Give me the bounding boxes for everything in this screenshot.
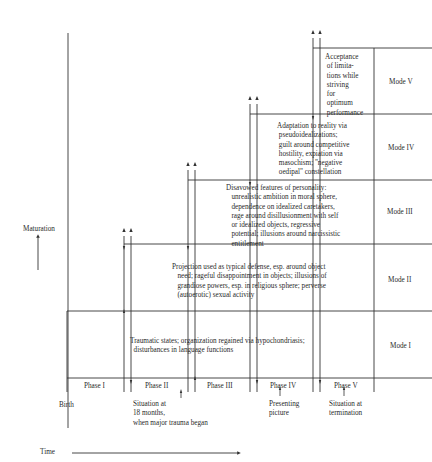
mode-3-label: Mode III bbox=[387, 208, 413, 217]
mode-4-label: Mode IV bbox=[388, 144, 414, 153]
situation-18-months-label: Situation at 18 months, when major traum… bbox=[133, 400, 208, 428]
phase-4-label: Phase IV bbox=[270, 382, 296, 391]
time-label: Time bbox=[40, 448, 55, 457]
phase-3-label: Phase III bbox=[207, 382, 233, 391]
phase-1-label: Phase I bbox=[84, 382, 105, 391]
mode-3-description: Disavowed features of personality: unrea… bbox=[226, 184, 340, 249]
mode-1-description: Traumatic states; organization regained … bbox=[130, 337, 305, 356]
diagram-lines bbox=[0, 0, 432, 462]
phase-2-label: Phase II bbox=[145, 382, 168, 391]
mode-2-description: Projection used as typical defense, esp.… bbox=[172, 263, 327, 300]
mode-4-description: Adaptation to reality via pseudoidealiza… bbox=[277, 122, 349, 178]
mode-5-description: Acceptance of limita- tions while strivi… bbox=[325, 53, 363, 118]
mode-5-label: Mode V bbox=[389, 78, 413, 87]
mode-1-label: Mode I bbox=[390, 342, 411, 351]
situation-termination-label: Situation at termination bbox=[329, 400, 362, 419]
presenting-picture-label: Presenting picture bbox=[269, 400, 299, 419]
birth-label: Birth bbox=[59, 401, 74, 410]
phase-5-label: Phase V bbox=[334, 382, 358, 391]
mode-2-label: Mode II bbox=[388, 276, 411, 285]
maturation-label: Maturation bbox=[23, 225, 55, 234]
